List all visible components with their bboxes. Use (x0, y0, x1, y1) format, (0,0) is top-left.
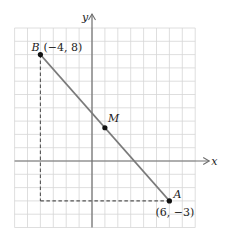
x-axis-label: x (211, 155, 218, 168)
point-a-coordinates: (6, −3) (155, 206, 194, 219)
y-axis-label: y (81, 11, 89, 24)
point-a (167, 198, 172, 203)
point-b-coordinates: (−4, 8) (43, 41, 82, 54)
point-a-name: A (172, 188, 181, 201)
coordinate-plane-figure: x y B (−4, 8) M A (6, −3) (0, 0, 225, 233)
point-m-name: M (107, 112, 120, 125)
point-m-midpoint (102, 125, 107, 130)
point-b-name: B (30, 41, 39, 54)
coordinate-plane-svg: x y B (−4, 8) M A (6, −3) (0, 0, 225, 233)
